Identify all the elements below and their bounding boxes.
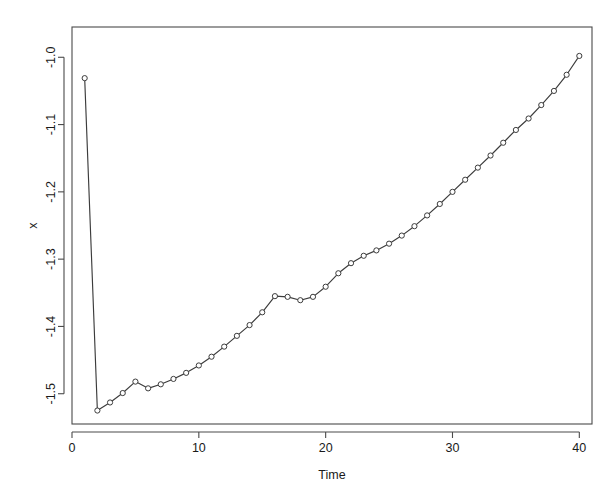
- plot-frame: [72, 27, 592, 424]
- y-axis-ticks: -1.0-1.1-1.2-1.3-1.4-1.5: [44, 46, 64, 404]
- data-point: [425, 213, 430, 218]
- y-tick-label: -1.4: [44, 316, 58, 338]
- data-point: [386, 241, 391, 246]
- y-tick-label: -1.5: [44, 383, 58, 405]
- data-point: [412, 224, 417, 229]
- x-tick-label: 30: [446, 441, 460, 455]
- data-point: [120, 390, 125, 395]
- data-point: [310, 294, 315, 299]
- data-point: [450, 189, 455, 194]
- data-point: [399, 233, 404, 238]
- data-point: [272, 294, 277, 299]
- data-point: [234, 333, 239, 338]
- data-point: [95, 408, 100, 413]
- data-point: [501, 140, 506, 145]
- x-tick-label: 10: [192, 441, 206, 455]
- data-point: [184, 370, 189, 375]
- x-tick-label: 20: [319, 441, 333, 455]
- data-point: [336, 271, 341, 276]
- y-axis-title: x: [26, 222, 40, 229]
- time-series-chart: -1.0-1.1-1.2-1.3-1.4-1.5 010203040 Time …: [0, 0, 615, 504]
- y-tick-label: -1.2: [44, 181, 58, 203]
- y-tick-label: -1.3: [44, 248, 58, 270]
- data-point: [247, 322, 252, 327]
- data-point: [107, 400, 112, 405]
- data-point: [437, 201, 442, 206]
- series-line-x: [85, 56, 580, 411]
- data-point: [285, 294, 290, 299]
- y-tick-label: -1.1: [44, 114, 58, 136]
- x-axis-title: Time: [318, 468, 345, 482]
- data-point: [539, 102, 544, 107]
- data-point: [577, 53, 582, 58]
- data-point: [551, 88, 556, 93]
- data-point: [171, 376, 176, 381]
- data-point: [158, 382, 163, 387]
- data-point: [209, 354, 214, 359]
- data-point: [222, 344, 227, 349]
- data-point: [133, 379, 138, 384]
- data-point: [361, 253, 366, 258]
- x-axis-ticks: 010203040: [69, 432, 587, 455]
- data-point: [526, 116, 531, 121]
- data-point: [513, 127, 518, 132]
- x-tick-label: 0: [69, 441, 76, 455]
- data-point: [475, 165, 480, 170]
- data-point: [260, 310, 265, 315]
- data-point: [82, 76, 87, 81]
- chart-container: -1.0-1.1-1.2-1.3-1.4-1.5 010203040 Time …: [0, 0, 615, 504]
- data-point: [146, 386, 151, 391]
- data-point: [196, 363, 201, 368]
- data-point: [348, 261, 353, 266]
- data-point: [488, 153, 493, 158]
- data-point: [564, 72, 569, 77]
- data-point: [323, 284, 328, 289]
- data-point: [374, 248, 379, 253]
- series-markers-x: [82, 53, 582, 413]
- data-point: [298, 298, 303, 303]
- y-tick-label: -1.0: [44, 46, 58, 68]
- data-point: [463, 177, 468, 182]
- x-tick-label: 40: [572, 441, 586, 455]
